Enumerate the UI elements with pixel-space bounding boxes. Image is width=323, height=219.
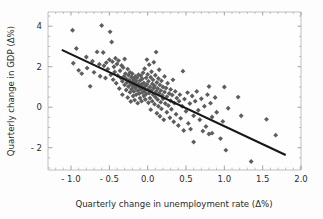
x-tick-label: 2.0 — [294, 174, 308, 184]
x-tick-label: 1.5 — [256, 174, 270, 184]
y-tick-label: - 2 — [31, 143, 42, 153]
y-tick-label: 4 — [37, 21, 42, 31]
y-tick-label: 2 — [37, 62, 42, 72]
x-tick-label: 0.0 — [141, 174, 155, 184]
x-axis-title: Quarterly change in unemployment rate (Δ… — [75, 199, 272, 209]
chart-figure: - 1.0- 0.50.00.51.01.52.0 - 2024 Quarter… — [0, 0, 323, 219]
x-tick-label: 0.5 — [179, 174, 193, 184]
y-tick-label: 0 — [37, 102, 42, 112]
y-axis-title: Quarterly change in GDP (Δ%) — [6, 26, 16, 156]
x-tick-label: - 1.0 — [61, 174, 80, 184]
x-tick-label: 1.0 — [218, 174, 232, 184]
x-tick-label: - 0.5 — [100, 174, 119, 184]
scatter-plot: - 1.0- 0.50.00.51.01.52.0 - 2024 Quarter… — [0, 0, 323, 219]
